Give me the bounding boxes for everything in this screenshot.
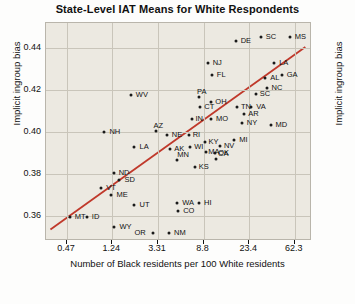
data-point-label: UT <box>139 201 149 209</box>
x-axis-tick-mark <box>66 240 67 244</box>
data-point-label: IN <box>196 115 204 123</box>
data-point <box>110 193 113 196</box>
data-point <box>214 151 217 154</box>
data-point-label: AR <box>248 110 258 118</box>
data-point <box>198 96 201 99</box>
data-point <box>273 61 276 64</box>
data-point-label: KY <box>209 138 219 146</box>
data-point <box>68 215 71 218</box>
data-point-label: MD <box>276 121 288 129</box>
y-axis-tick-label: 0.44 <box>23 42 41 52</box>
data-point <box>103 131 106 134</box>
data-point <box>210 74 213 77</box>
x-axis-tick-mark <box>157 240 158 244</box>
y-axis-tick-label: 0.40 <box>23 126 41 136</box>
gridline-horizontal <box>46 48 310 49</box>
chart-title: State-Level IAT Means for White Responde… <box>0 3 355 15</box>
x-axis-label: Number of Black residents per 100 White … <box>0 258 355 269</box>
x-axis-tick-label: 1.24 <box>102 243 120 253</box>
data-point <box>129 94 132 97</box>
data-point <box>165 134 168 137</box>
data-point-label: MN <box>177 151 189 159</box>
data-point-label: FL <box>217 71 226 79</box>
data-point-label: CA <box>218 150 228 158</box>
data-point-label: WY <box>119 223 131 231</box>
data-point-label: NJ <box>213 59 222 67</box>
data-point <box>203 141 206 144</box>
data-point-label: HI <box>204 199 212 207</box>
x-axis-tick-label: 0.47 <box>57 243 75 253</box>
data-point-label: MO <box>216 115 228 123</box>
data-point <box>113 226 116 229</box>
data-point <box>118 179 121 182</box>
data-point <box>235 105 238 108</box>
data-point-label: GA <box>287 71 298 79</box>
gridline-vertical <box>158 23 159 239</box>
gridline-vertical <box>249 23 250 239</box>
data-point-label: LA <box>279 59 288 67</box>
data-point <box>133 145 136 148</box>
data-point-label: MT <box>75 213 86 221</box>
data-point <box>234 39 237 42</box>
data-point-label: DE <box>241 37 251 45</box>
y-axis-tick-label: 0.36 <box>23 210 41 220</box>
data-point-label: AZ <box>153 122 163 130</box>
data-point-label: WV <box>136 91 148 99</box>
data-point <box>264 76 267 79</box>
x-axis-tick-label: 8.8 <box>196 243 209 253</box>
data-point <box>187 134 190 137</box>
data-point-label: ME <box>116 191 127 199</box>
y-axis-label-left: Implicit ingroup bias <box>11 24 22 144</box>
data-point-label: CO <box>183 207 194 215</box>
data-point <box>152 231 155 234</box>
data-point <box>169 147 172 150</box>
data-point <box>176 159 179 162</box>
gridline-horizontal <box>46 174 310 175</box>
y-axis-label-right: Implicit ingroup bias <box>333 24 344 144</box>
data-point <box>254 93 257 96</box>
gridline-vertical <box>67 23 68 239</box>
data-point-label: MI <box>239 136 247 144</box>
data-point-label: SC <box>260 90 270 98</box>
data-point <box>176 202 179 205</box>
data-point-label: ID <box>92 213 100 221</box>
data-point <box>250 105 253 108</box>
data-point-label: PA <box>197 88 206 96</box>
data-point-label: OR <box>134 229 145 237</box>
data-point-label: NE <box>172 131 182 139</box>
x-axis-tick-label: 3.31 <box>148 243 166 253</box>
data-point-label: CT <box>204 103 214 111</box>
data-point <box>193 165 196 168</box>
chart-figure: State-Level IAT Means for White Responde… <box>0 0 355 304</box>
data-point <box>133 204 136 207</box>
data-point-label: AL <box>270 74 279 82</box>
x-axis-tick-mark <box>248 240 249 244</box>
data-point-label: LA <box>139 143 148 151</box>
gridline-vertical <box>295 23 296 239</box>
data-point <box>85 215 88 218</box>
x-axis-tick-mark <box>111 240 112 244</box>
plot-area: DESCMSNJLAFLALGASCNCWVPAOHCTTNVAARMONYIN… <box>45 22 311 240</box>
data-point-label: NH <box>109 128 120 136</box>
x-axis-tick-label: 62.3 <box>285 243 303 253</box>
data-point-label: NC <box>272 84 283 92</box>
data-point-label: VT <box>106 184 116 192</box>
y-axis-tick-label: 0.38 <box>23 168 41 178</box>
data-point-label: MS <box>295 33 306 41</box>
data-point <box>240 121 243 124</box>
data-point <box>112 171 115 174</box>
data-point <box>198 202 201 205</box>
data-point <box>215 158 218 161</box>
data-point <box>280 74 283 77</box>
data-point <box>190 118 193 121</box>
x-axis-tick-mark <box>294 240 295 244</box>
data-point <box>189 145 192 148</box>
data-point <box>259 35 262 38</box>
data-point <box>209 118 212 121</box>
data-point <box>168 231 171 234</box>
x-axis-tick-mark <box>203 240 204 244</box>
data-point <box>288 35 291 38</box>
data-point-label: KS <box>199 163 209 171</box>
data-point <box>199 105 202 108</box>
data-point <box>177 209 180 212</box>
